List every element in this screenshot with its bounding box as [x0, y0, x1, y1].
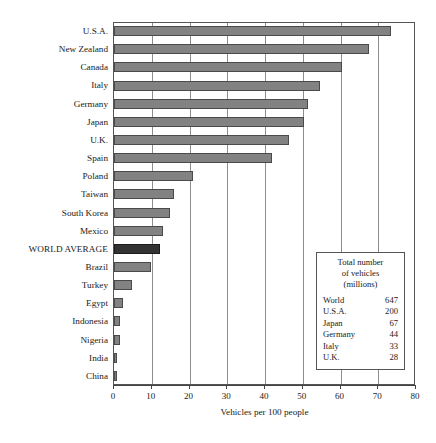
inset-legend-table: World647U.S.A.200Japan67Germany44Italy33…	[323, 295, 398, 363]
bar-row: South Korea	[0, 204, 436, 222]
bar	[114, 189, 174, 199]
bar-row: Mexico	[0, 222, 436, 240]
x-tick-label: 20	[174, 391, 204, 401]
category-label: Nigeria	[0, 331, 108, 349]
inset-legend-row: World647	[323, 295, 398, 306]
category-label: China	[0, 367, 108, 385]
x-tick-label: 50	[287, 391, 317, 401]
inset-legend-country: U.K.	[323, 352, 376, 363]
x-tick	[377, 385, 378, 389]
category-label: U.S.A.	[0, 22, 108, 40]
inset-legend-box: Total number of vehicles (millions) Worl…	[316, 252, 405, 370]
category-label: Mexico	[0, 222, 108, 240]
bar	[114, 353, 117, 363]
inset-legend-row: Japan67	[323, 318, 398, 329]
x-tick-label: 10	[136, 391, 166, 401]
bar	[114, 226, 163, 236]
inset-title-line-2: of vehicles	[323, 268, 398, 279]
x-tick	[415, 385, 416, 389]
bar	[114, 244, 160, 254]
category-label: Japan	[0, 113, 108, 131]
bar	[114, 117, 304, 127]
bar	[114, 335, 120, 345]
bar	[114, 262, 151, 272]
inset-legend-value: 28	[376, 352, 398, 363]
x-tick	[189, 385, 190, 389]
inset-legend-country: Germany	[323, 329, 376, 340]
x-tick	[226, 385, 227, 389]
category-label: India	[0, 349, 108, 367]
bar-row: Canada	[0, 58, 436, 76]
x-tick-label: 40	[249, 391, 279, 401]
inset-legend-value: 647	[376, 295, 398, 306]
inset-legend-title: Total number of vehicles (millions)	[323, 257, 398, 290]
bar-row: Taiwan	[0, 185, 436, 203]
category-label: Turkey	[0, 276, 108, 294]
category-label: New Zealand	[0, 40, 108, 58]
x-tick	[264, 385, 265, 389]
x-tick-label: 70	[362, 391, 392, 401]
category-label: Taiwan	[0, 185, 108, 203]
x-tick	[302, 385, 303, 389]
inset-legend-country: Italy	[323, 341, 376, 352]
bar	[114, 208, 170, 218]
x-tick	[113, 385, 114, 389]
inset-legend-country: Japan	[323, 318, 376, 329]
bar	[114, 135, 289, 145]
bar	[114, 81, 320, 91]
x-tick-label: 0	[98, 391, 128, 401]
x-tick-label: 80	[400, 391, 430, 401]
bar	[114, 280, 132, 290]
bar-row: U.S.A.	[0, 22, 436, 40]
bar-row: Germany	[0, 95, 436, 113]
category-label: Germany	[0, 95, 108, 113]
category-label: South Korea	[0, 204, 108, 222]
bar	[114, 153, 272, 163]
bar-row: Japan	[0, 113, 436, 131]
inset-title-line-3: (millions)	[323, 279, 398, 290]
inset-legend-row: U.S.A.200	[323, 306, 398, 317]
bar	[114, 99, 308, 109]
x-axis-title: Vehicles per 100 people	[113, 407, 416, 417]
bar	[114, 316, 120, 326]
inset-legend-value: 44	[376, 329, 398, 340]
inset-legend-value: 200	[376, 306, 398, 317]
category-label: Italy	[0, 76, 108, 94]
category-label: Spain	[0, 149, 108, 167]
inset-legend-row: U.K.28	[323, 352, 398, 363]
category-label: Brazil	[0, 258, 108, 276]
x-tick-label: 60	[325, 391, 355, 401]
inset-legend-value: 67	[376, 318, 398, 329]
bar	[114, 298, 123, 308]
inset-title-line-1: Total number	[323, 257, 398, 268]
bar	[114, 26, 391, 36]
inset-legend-value: 33	[376, 341, 398, 352]
x-tick	[151, 385, 152, 389]
category-label: Indonesia	[0, 312, 108, 330]
bar	[114, 171, 193, 181]
category-label: WORLD AVERAGE	[0, 240, 108, 258]
bar-row: U.K.	[0, 131, 436, 149]
inset-legend-row: Italy33	[323, 341, 398, 352]
category-label: Canada	[0, 58, 108, 76]
inset-legend-row: Germany44	[323, 329, 398, 340]
bar-row: Poland	[0, 167, 436, 185]
inset-legend-country: U.S.A.	[323, 306, 376, 317]
bar-row: Italy	[0, 76, 436, 94]
bar-row: New Zealand	[0, 40, 436, 58]
bar-chart: U.S.A.New ZealandCanadaItalyGermanyJapan…	[0, 0, 436, 443]
inset-legend-country: World	[323, 295, 376, 306]
category-label: Poland	[0, 167, 108, 185]
bar-row: Spain	[0, 149, 436, 167]
bar	[114, 371, 117, 381]
category-label: Egypt	[0, 294, 108, 312]
x-tick-label: 30	[211, 391, 241, 401]
bar	[114, 62, 342, 72]
x-tick	[340, 385, 341, 389]
bar	[114, 44, 369, 54]
category-label: U.K.	[0, 131, 108, 149]
